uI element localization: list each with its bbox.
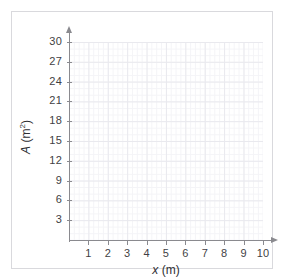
y-tick-mark: [67, 82, 72, 83]
y-tick-label: 24: [30, 76, 62, 87]
y-axis-title: A (m2): [19, 101, 33, 173]
y-tick-mark: [67, 220, 72, 221]
y-axis-title-spacer: [19, 143, 33, 146]
y-tick-label: 6: [30, 194, 62, 205]
x-axis-title: x (m): [69, 263, 263, 277]
x-tick-mark: [224, 240, 225, 245]
y-tick-label: 12: [30, 155, 62, 166]
x-tick-mark: [127, 240, 128, 245]
y-tick-mark: [67, 42, 72, 43]
y-tick-mark: [67, 200, 72, 201]
x-axis-line: [69, 240, 272, 241]
x-tick-mark: [108, 240, 109, 245]
x-tick-mark: [88, 240, 89, 245]
y-tick-mark: [67, 101, 72, 102]
y-axis-title-close-paren: ): [19, 120, 33, 124]
y-tick-label: 3: [30, 214, 62, 225]
x-tick-label: 10: [251, 247, 275, 259]
x-axis-arrow-icon: [271, 237, 278, 243]
figure-frame: 12345678910 36912151821242730 x (m) A (m…: [11, 11, 273, 269]
y-tick-mark: [67, 62, 72, 63]
y-tick-label: 27: [30, 56, 62, 67]
x-tick-mark: [205, 240, 206, 245]
x-tick-mark: [244, 240, 245, 245]
y-tick-label: 30: [30, 36, 62, 47]
y-axis-title-variable: A: [19, 146, 33, 154]
x-tick-mark: [166, 240, 167, 245]
y-tick-mark: [67, 141, 72, 142]
y-tick-label: 9: [30, 175, 62, 186]
y-tick-label: 18: [30, 115, 62, 126]
grid-lines: [69, 42, 263, 240]
y-tick-label: 15: [30, 135, 62, 146]
y-tick-mark: [67, 181, 72, 182]
graph-figure: 12345678910 36912151821242730 x (m) A (m…: [0, 0, 284, 280]
y-axis-title-exponent: 2: [18, 124, 27, 128]
y-tick-mark: [67, 161, 72, 162]
y-axis-arrow-icon: [66, 26, 72, 33]
x-tick-mark: [147, 240, 148, 245]
y-tick-label: 21: [30, 95, 62, 106]
y-axis-title-unit: (m: [19, 129, 33, 143]
x-tick-mark: [185, 240, 186, 245]
x-tick-mark: [263, 240, 264, 245]
plot-area: [69, 42, 263, 240]
y-tick-mark: [67, 121, 72, 122]
x-axis-title-unit: (m): [162, 263, 180, 277]
